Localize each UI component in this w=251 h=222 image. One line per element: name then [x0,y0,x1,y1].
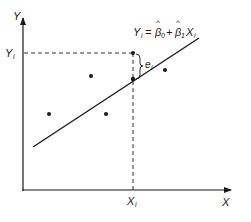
svg-text:i: i [13,53,15,60]
regression-line [33,38,199,147]
x-i-tick-label: X i [126,195,137,208]
svg-text:i: i [151,64,153,71]
svg-text:i: i [194,32,196,39]
y-i-tick-label: Y i [5,47,15,60]
svg-text:Y: Y [5,47,13,59]
regression-diagram: Y X Y i X i e i Y i = ^ β 0 + ^ β 1 [0,0,251,222]
svg-text:=: = [145,26,152,38]
fitted-point [131,77,135,81]
svg-text:1: 1 [181,32,185,39]
x-axis-label: X [221,196,230,208]
data-point [163,68,167,72]
y-axis-label: Y [13,10,21,22]
svg-text:0: 0 [161,32,165,39]
data-point [47,112,51,116]
observed-point-yi [131,51,135,55]
data-point [89,74,93,78]
svg-text:X: X [126,195,135,207]
regression-equation: Y i = ^ β 0 + ^ β 1 X i [133,18,196,39]
svg-text:Y: Y [133,26,141,38]
residual-label: e i [145,59,153,71]
svg-text:+: + [166,26,173,38]
svg-text:i: i [141,32,143,39]
data-point [104,112,108,116]
svg-text:X: X [185,26,194,38]
svg-text:i: i [135,201,137,208]
